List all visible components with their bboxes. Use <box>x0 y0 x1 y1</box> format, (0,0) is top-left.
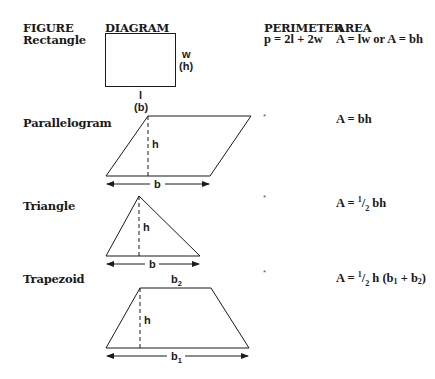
rectangle-label-l: l <box>139 89 142 101</box>
parallelogram-diagram: h b <box>106 116 251 190</box>
trapezoid-label-b1: b1 <box>171 350 182 365</box>
diagrams-canvas: w (h) l (b) h b h b h b2 b1 <box>0 0 435 379</box>
parallelogram-label-b: b <box>154 178 161 190</box>
parallelogram-label-h: h <box>152 138 159 150</box>
trapezoid-diagram: h b2 b1 <box>106 273 249 365</box>
rectangle-diagram: w (h) l (b) <box>106 34 194 114</box>
rectangle-label-b: (b) <box>134 101 148 113</box>
triangle-diagram: h b <box>106 196 200 270</box>
rectangle-label-h: (h) <box>179 60 193 72</box>
triangle-label-b: b <box>149 258 156 270</box>
triangle-label-h: h <box>143 221 150 233</box>
trapezoid-label-h: h <box>144 314 151 326</box>
rectangle-label-w: w <box>181 48 191 60</box>
trapezoid-label-b2: b2 <box>171 273 182 288</box>
